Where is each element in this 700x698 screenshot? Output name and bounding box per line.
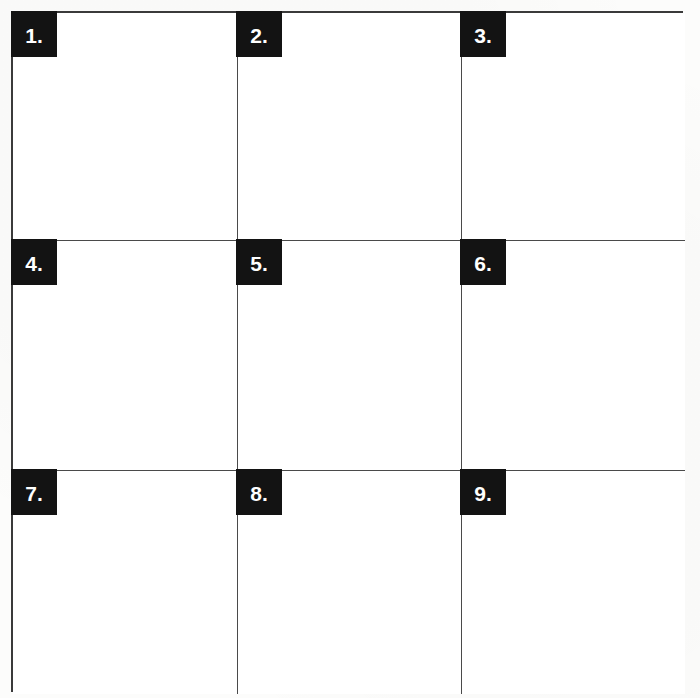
- cell-number-text: 9.: [474, 483, 492, 504]
- cell-number-label-5: 5.: [236, 239, 282, 285]
- answer-grid: 1. 2. 3. 4. 5.: [11, 11, 683, 692]
- cell-number-text: 6.: [474, 253, 492, 274]
- worksheet-page: 1. 2. 3. 4. 5.: [0, 0, 700, 698]
- cell-number-label-7: 7.: [11, 469, 57, 515]
- grid-cell-4[interactable]: 4.: [13, 241, 238, 471]
- grid-cell-5[interactable]: 5.: [238, 241, 462, 471]
- cell-number-label-6: 6.: [460, 239, 506, 285]
- cell-number-label-4: 4.: [11, 239, 57, 285]
- grid-cell-1[interactable]: 1.: [13, 13, 238, 241]
- cell-number-text: 1.: [25, 25, 43, 46]
- cell-number-label-8: 8.: [236, 469, 282, 515]
- cell-number-text: 7.: [25, 483, 43, 504]
- grid-cell-6[interactable]: 6.: [462, 241, 685, 471]
- cell-number-text: 3.: [474, 25, 492, 46]
- cell-number-label-9: 9.: [460, 469, 506, 515]
- cell-number-label-2: 2.: [236, 11, 282, 57]
- grid-cell-2[interactable]: 2.: [238, 13, 462, 241]
- cell-number-label-3: 3.: [460, 11, 506, 57]
- cell-number-text: 4.: [25, 253, 43, 274]
- grid-cell-9[interactable]: 9.: [462, 471, 685, 694]
- cell-number-label-1: 1.: [11, 11, 57, 57]
- cell-number-text: 2.: [250, 25, 268, 46]
- cell-number-text: 5.: [250, 253, 268, 274]
- grid-cell-7[interactable]: 7.: [13, 471, 238, 694]
- grid-cell-3[interactable]: 3.: [462, 13, 685, 241]
- cell-number-text: 8.: [250, 483, 268, 504]
- grid-cell-8[interactable]: 8.: [238, 471, 462, 694]
